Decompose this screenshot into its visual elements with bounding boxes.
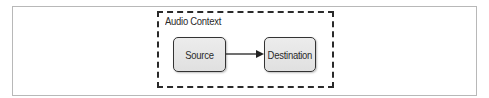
arrow-icon [226, 48, 265, 60]
destination-node: Destination [264, 37, 316, 72]
source-node-label: Source [185, 49, 213, 61]
source-node: Source [173, 37, 226, 72]
audio-context-label: Audio Context [165, 15, 221, 27]
destination-node-label: Destination [268, 49, 312, 61]
